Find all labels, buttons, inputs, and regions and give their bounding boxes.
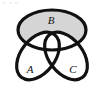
scan-artifact [15, 2, 18, 4]
set-label-b: B [48, 14, 55, 26]
venn-diagram-canvas: B A C [0, 0, 104, 92]
set-label-a: A [26, 63, 34, 75]
scan-artifact [9, 2, 12, 4]
set-label-c: C [69, 63, 77, 75]
scan-artifact [3, 2, 6, 4]
venn-diagram-figure: B A C [0, 0, 104, 92]
